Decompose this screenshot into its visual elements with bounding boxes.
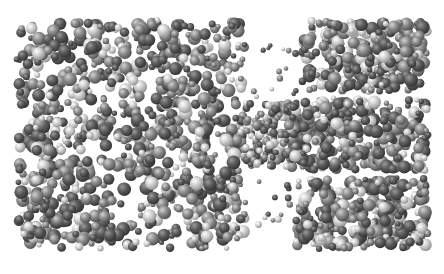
atom-sphere [15, 165, 23, 173]
atom-sphere [329, 243, 337, 251]
atom-sphere [360, 244, 367, 251]
atom-sphere [38, 101, 46, 109]
atom-sphere [352, 65, 361, 74]
atom-sphere [316, 246, 322, 252]
atom-sphere [352, 188, 359, 195]
atom-sphere [377, 68, 385, 76]
atom-sphere [74, 27, 87, 40]
atom-sphere [198, 92, 212, 106]
atom-sphere [16, 179, 22, 185]
atom-sphere [212, 152, 218, 158]
atom-sphere [256, 148, 262, 154]
atom-sphere [106, 68, 113, 75]
atom-sphere [73, 231, 80, 238]
atom-sphere [168, 143, 175, 150]
atom-sphere [231, 99, 241, 109]
atom-sphere [209, 21, 216, 28]
atom-sphere [289, 103, 297, 111]
atom-sphere [135, 228, 142, 235]
atom-sphere [354, 226, 361, 233]
atom-sphere [34, 72, 40, 78]
atom-sphere [83, 193, 91, 201]
atom-sphere [268, 43, 273, 48]
atom-sphere [52, 117, 62, 127]
atom-sphere [135, 57, 147, 69]
atom-sphere [384, 101, 389, 106]
atom-sphere [308, 70, 316, 78]
atom-sphere [285, 195, 292, 202]
atom-sphere [195, 127, 205, 137]
atom-sphere [271, 122, 278, 129]
atom-sphere [422, 135, 428, 141]
atom-sphere [32, 145, 42, 155]
atom-sphere [71, 19, 81, 29]
atom-sphere [395, 221, 400, 226]
atom-sphere [193, 143, 201, 151]
atom-sphere [175, 205, 183, 213]
atom-sphere [357, 43, 371, 57]
atom-sphere [281, 47, 285, 51]
atom-sphere [378, 202, 389, 213]
atom-sphere [349, 120, 360, 131]
atom-sphere [368, 96, 381, 109]
atom-sphere [357, 212, 367, 222]
atom-sphere [183, 66, 190, 73]
atom-sphere [189, 81, 196, 88]
atom-sphere [243, 127, 250, 134]
figure-caption [13, 258, 433, 272]
atom-sphere [57, 146, 66, 155]
atom-sphere [147, 20, 156, 29]
atom-sphere [260, 126, 268, 134]
atom-sphere [284, 138, 289, 143]
atom-sphere [39, 169, 46, 176]
atom-sphere [91, 222, 100, 231]
atom-sphere [149, 111, 157, 119]
atom-sphere [121, 137, 128, 144]
atom-sphere [75, 243, 83, 251]
atom-sphere [149, 144, 155, 150]
atom-sphere [232, 115, 239, 122]
atom-sphere [42, 221, 49, 228]
atom-sphere [313, 163, 318, 168]
atom-sphere [162, 157, 174, 169]
atom-sphere [418, 98, 424, 104]
atom-sphere [284, 66, 289, 71]
atom-sphere [385, 135, 392, 142]
atom-sphere [80, 212, 91, 223]
atom-sphere [320, 116, 328, 124]
atom-sphere [89, 240, 95, 246]
atom-sphere [157, 24, 170, 37]
atom-sphere [404, 73, 418, 87]
atom-sphere [99, 211, 111, 223]
atom-sphere [125, 143, 132, 150]
atom-sphere [139, 121, 149, 131]
atom-sphere [99, 198, 109, 208]
atom-sphere [312, 48, 320, 56]
atom-sphere [363, 199, 376, 212]
atom-sphere [172, 21, 181, 30]
atom-sphere [424, 128, 429, 133]
atom-sphere [88, 71, 101, 84]
atom-sphere [401, 196, 409, 204]
atom-sphere [319, 101, 332, 114]
atom-sphere [355, 19, 368, 32]
atom-sphere [37, 132, 46, 141]
atom-sphere [228, 23, 235, 30]
atom-sphere [372, 147, 384, 159]
atom-sphere [56, 31, 68, 43]
atom-sphere [17, 88, 24, 95]
atom-sphere [134, 24, 145, 35]
atom-sphere [91, 62, 97, 68]
atom-sphere [97, 24, 103, 30]
atom-sphere [228, 182, 237, 191]
atom-sphere [271, 218, 276, 223]
atom-sphere [385, 86, 393, 94]
atom-sphere [163, 74, 173, 84]
atom-sphere [91, 176, 102, 187]
atom-sphere [153, 146, 166, 159]
atom-sphere [312, 138, 319, 145]
atom-sphere [310, 241, 315, 246]
atom-sphere [181, 23, 188, 30]
atom-sphere [277, 75, 283, 81]
atom-sphere [243, 144, 250, 151]
